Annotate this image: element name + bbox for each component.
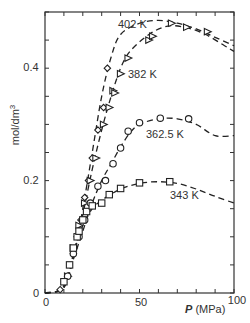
curve-label-382k: 382 K [128,68,157,80]
y-tick-label-0.2: 0.2 [23,174,38,186]
fit-curve-343k [45,182,234,293]
square-marker [136,180,142,186]
y-axis-title: mol/dm3 [8,104,21,145]
x-tick-label-50: 50 [135,296,147,308]
square-marker [70,245,76,251]
triangle-marker [125,55,132,61]
circle-marker [185,116,191,122]
y-tick-label-0.4: 0.4 [23,61,38,73]
fit-curve-362.5k [45,118,234,293]
circle-marker [157,115,163,121]
square-marker [99,200,105,206]
triangle-marker [184,24,191,30]
curve-label-362k: 362.5 K [146,128,185,140]
y-tick-label-0: 0 [33,287,39,299]
y-axis-superscript: 3 [8,104,17,109]
triangle-marker [106,104,113,110]
triangle-marker [168,20,175,26]
circle-marker [136,120,142,126]
x-axis-title: P (MPa) [185,303,225,315]
circle-marker [102,177,108,183]
square-marker [61,279,67,285]
square-marker [80,217,86,223]
square-marker [89,203,95,209]
curve-label-343k: 343 K [170,189,199,201]
circle-marker [110,161,116,167]
diamond-marker [104,65,110,71]
x-tick-label-0: 0 [43,296,49,308]
data-markers [57,20,211,293]
y-axis-unit: mol/dm [9,109,21,145]
square-marker [66,262,72,268]
triangle-marker [93,155,100,161]
curve-label-402k: 402 K [118,18,147,30]
square-marker [76,228,82,234]
square-marker [167,179,173,185]
square-marker [117,185,123,191]
triangle-marker [150,33,157,39]
x-axis-unit: (MPa) [192,303,225,315]
circle-marker [95,183,101,189]
square-marker [106,191,112,197]
circle-marker [125,128,131,134]
x-tick-label-100: 100 [228,294,246,306]
circle-marker [117,145,123,151]
chart-svg: 0 0.2 0.4 0 50 100 P (MPa) mol/dm3 402 K… [0,0,250,323]
triangle-marker [117,71,124,77]
